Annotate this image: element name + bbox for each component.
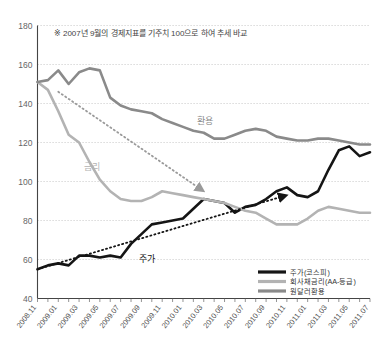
legend-label: 원달러환용 [290, 287, 325, 296]
y-axis-tick-label: 60 [23, 255, 33, 265]
y-axis-tick-label: 120 [18, 138, 32, 148]
x-axis-tick-label: 2010.05 [201, 303, 225, 330]
chart-note: ※ 2007년 9월의 경제지표를 기주치 100으로 하여 추세 바교 [54, 28, 247, 38]
legend-label: 회사채금리(AA-등급) [290, 277, 356, 286]
inline-series-label: 환용 [197, 115, 213, 126]
series-line-3 [38, 68, 371, 144]
y-axis-tick-label: 80 [23, 216, 33, 226]
inline-series-label: 금리 [84, 162, 100, 172]
x-axis-tick-label: 2011.01 [285, 303, 308, 329]
inline-series-label: 주가 [139, 254, 155, 264]
x-axis-tick-label: 2010.07 [222, 303, 246, 330]
x-axis-tick-label: 2008.11 [15, 303, 38, 329]
interest-rate-trend-arrow [58, 92, 203, 191]
x-axis-tick-label: 2009.05 [77, 303, 101, 330]
y-axis-tick-label: 140 [18, 99, 32, 109]
x-axis-tick-label: 2011.03 [306, 303, 329, 329]
x-axis-tick-label: 2010.11 [264, 303, 287, 329]
x-axis-tick-label: 2009.09 [118, 303, 142, 330]
economic-indicators-line-chart: 406080100120140160180※ 2007년 9월의 경제지표를 기… [0, 0, 386, 358]
x-axis-tick-label: 2011.05 [326, 303, 349, 329]
x-axis-tick-label: 2009.03 [56, 303, 80, 330]
legend-label: 주가(코스피) [290, 268, 330, 277]
y-axis-tick-label: 160 [18, 60, 32, 70]
x-axis-tick-label: 2011.07 [347, 303, 370, 329]
y-axis-tick-label: 100 [18, 177, 32, 187]
y-axis-tick-label: 180 [18, 21, 32, 31]
x-axis-tick-label: 2009.07 [97, 303, 121, 330]
x-axis-tick-label: 2009.01 [35, 303, 59, 330]
chart-container: 406080100120140160180※ 2007년 9월의 경제지표를 기… [0, 0, 386, 358]
x-axis-tick-label: 2009.11 [139, 303, 162, 329]
x-axis-tick-label: 2010.09 [243, 303, 267, 330]
y-axis-tick-label: 40 [23, 294, 33, 304]
x-axis-tick-label: 2010.01 [160, 303, 184, 330]
x-axis-tick-label: 2010.03 [181, 303, 205, 330]
